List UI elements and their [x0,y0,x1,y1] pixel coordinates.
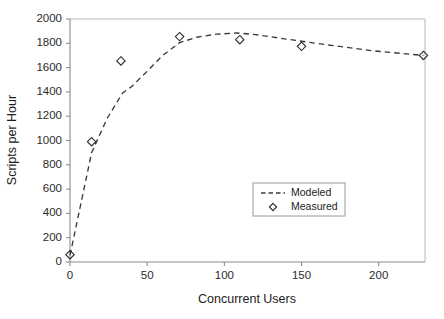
measured-data-point [87,138,95,146]
y-tick-label: 800 [43,158,62,170]
y-tick-label: 1000 [36,134,62,146]
x-tick-label: 200 [369,269,388,281]
y-axis-title: Scripts per Hour [5,95,19,185]
x-axis-ticks: 050100150200 [67,262,388,281]
x-axis-title: Concurrent Users [198,292,296,306]
y-tick-label: 400 [43,206,62,218]
legend-item-label: Measured [291,200,338,212]
measured-data-point [117,57,125,65]
x-tick-label: 100 [215,269,234,281]
plot-frame [70,19,425,262]
y-axis-ticks: 0200400600800100012001400160018002000 [36,12,70,267]
x-tick-label: 50 [141,269,154,281]
data-series-group [66,32,428,258]
chart-legend: ModeledMeasured [253,183,345,216]
chart-container: 0200400600800100012001400160018002000 05… [0,0,444,319]
legend-item-label: Modeled [291,186,331,198]
measured-data-point [297,42,305,50]
y-tick-label: 1400 [36,85,62,97]
y-tick-label: 2000 [36,12,62,24]
y-tick-label: 1600 [36,61,62,73]
scripts-per-hour-line-chart: 0200400600800100012001400160018002000 05… [0,0,444,319]
modeled-line-series [70,33,423,255]
measured-data-point [175,32,183,40]
measured-data-point [236,35,244,43]
x-tick-label: 0 [67,269,73,281]
y-tick-label: 200 [43,231,62,243]
y-tick-label: 1200 [36,109,62,121]
measured-marker-series [66,32,428,258]
x-tick-label: 150 [292,269,311,281]
y-tick-label: 600 [43,182,62,194]
y-tick-label: 1800 [36,36,62,48]
y-tick-label: 0 [56,255,62,267]
